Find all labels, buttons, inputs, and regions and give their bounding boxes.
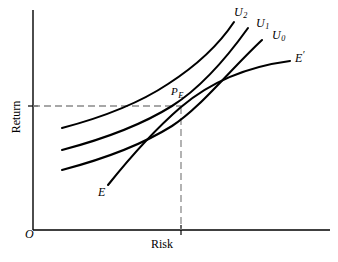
curve-label-e-prime: E′ (295, 50, 305, 64)
y-axis-label: Return (10, 87, 22, 147)
figure-canvas: U2 U1 U0 E′ E PE O Risk Return (0, 0, 338, 262)
origin-label: O (25, 228, 34, 240)
tangency-point-label: PE (171, 86, 183, 99)
curve-label-u0: U0 (272, 29, 285, 44)
curve-label-u2: U2 (234, 6, 247, 21)
efficient-frontier-curve (108, 61, 290, 185)
risk-return-plot (0, 0, 338, 262)
x-axis-label: Risk (151, 238, 173, 250)
indifference-curve-u0 (62, 40, 262, 170)
curve-label-u1: U1 (256, 17, 269, 32)
curve-label-e: E (98, 186, 105, 198)
